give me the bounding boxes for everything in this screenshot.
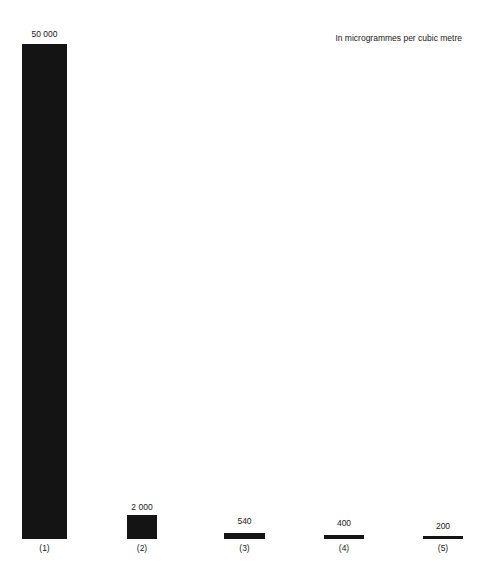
bar-rect <box>324 535 364 539</box>
bar-rect <box>22 44 67 539</box>
bar-value-label: 400 <box>337 518 351 528</box>
bar-category-label: (2) <box>137 543 147 553</box>
bar-value-label: 50 000 <box>32 29 58 39</box>
bar-item: 50 000(1) <box>22 0 67 582</box>
bar-item: 400(4) <box>324 0 364 582</box>
bar-item: 200(5) <box>423 0 463 582</box>
bar-category-label: (4) <box>339 543 349 553</box>
bar-item: 2 000(2) <box>127 0 157 582</box>
bar-category-label: (5) <box>438 543 448 553</box>
bar-rect <box>423 536 463 539</box>
bar-category-label: (3) <box>239 543 249 553</box>
bar-rect <box>127 515 157 539</box>
bar-value-label: 540 <box>237 516 251 526</box>
bar-category-label: (1) <box>39 543 49 553</box>
bar-value-label: 200 <box>436 521 450 531</box>
bar-rect <box>224 533 265 539</box>
bar-item: 540(3) <box>224 0 265 582</box>
bar-chart: In microgrammes per cubic metre 50 000(1… <box>0 0 478 582</box>
bar-value-label: 2 000 <box>131 502 152 512</box>
